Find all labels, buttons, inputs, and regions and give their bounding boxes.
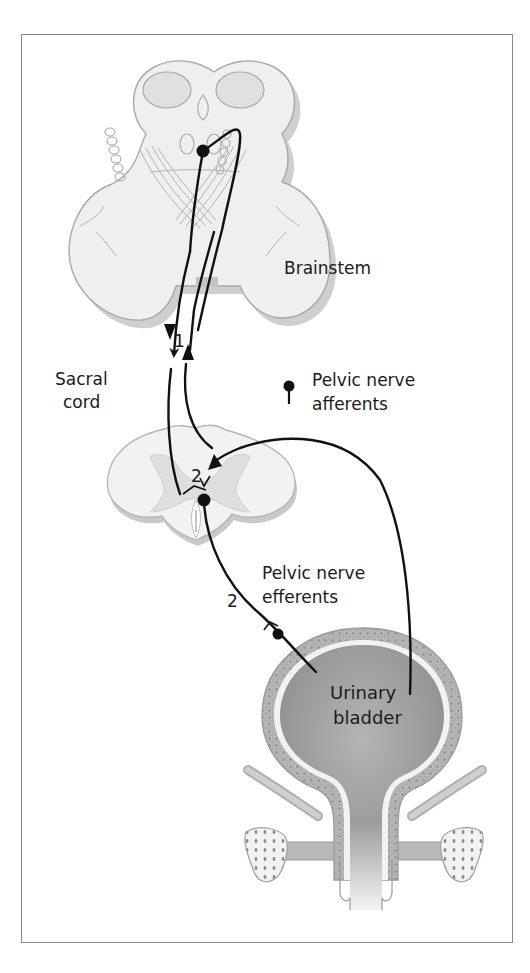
pathway-number-2-sacral: 2 xyxy=(191,466,202,486)
label-pelvic-efferents-line1: Pelvic nerve xyxy=(262,563,365,584)
micturition-pathway-diagram xyxy=(0,0,530,973)
label-pelvic-afferents-line1: Pelvic nerve xyxy=(312,370,415,391)
label-urinary-bladder-line1: Urinary xyxy=(330,682,396,703)
pathway-number-1: 1 xyxy=(174,331,185,351)
urinary-bladder-illustration xyxy=(245,628,483,910)
label-sacral-cord-line1: Sacral xyxy=(55,369,108,390)
label-sacral-cord-line2: cord xyxy=(63,392,100,413)
label-brainstem: Brainstem xyxy=(284,258,371,279)
brainstem-illustration xyxy=(69,61,336,328)
label-urinary-bladder-line2: bladder xyxy=(333,707,402,728)
efferent-neuron-dot xyxy=(273,629,284,640)
sacral-cord-illustration xyxy=(107,425,297,546)
sacral-neuron-dot xyxy=(198,494,211,507)
brainstem-neuron-dot xyxy=(197,145,210,158)
label-pelvic-efferents-line2: efferents xyxy=(262,587,338,608)
label-pelvic-afferents-line2: afferents xyxy=(312,394,388,415)
pathway-number-2-efferent: 2 xyxy=(227,591,238,611)
